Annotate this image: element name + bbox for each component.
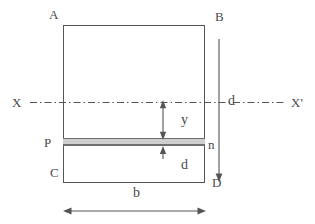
diagram-canvas: A B C D P n X X' d y d b xyxy=(0,0,315,224)
label-corner-d: D xyxy=(212,176,221,189)
width-arrowhead-left xyxy=(63,208,72,215)
label-axis-right-x-prime: X' xyxy=(291,96,303,109)
label-point-n: n xyxy=(208,138,215,151)
label-corner-c: C xyxy=(50,166,59,179)
label-point-p: P xyxy=(44,136,51,149)
label-dimension-depth: d xyxy=(228,94,235,108)
reinforcement-layer-band xyxy=(63,138,205,146)
label-dimension-width: b xyxy=(133,186,140,200)
label-axis-left-x: X xyxy=(12,96,21,109)
label-dimension-y: y xyxy=(181,113,188,127)
label-corner-a: A xyxy=(49,8,58,21)
label-dimension-cover: d xyxy=(181,158,188,172)
width-arrowhead-right xyxy=(198,208,207,215)
label-corner-b: B xyxy=(215,10,224,23)
